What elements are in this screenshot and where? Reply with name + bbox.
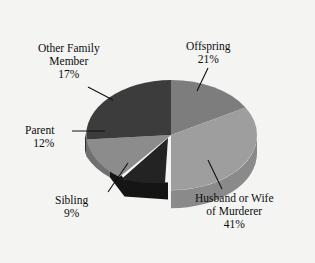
slice-label-other-family-line2: Member xyxy=(38,55,100,68)
slice-label-parent: Parent 12% xyxy=(25,124,54,150)
slice-label-sibling-percent: 9% xyxy=(55,207,88,220)
leader-line-other-family xyxy=(88,87,113,100)
slice-label-sibling-line1: Sibling xyxy=(55,194,88,207)
slice-label-sibling: Sibling 9% xyxy=(55,194,88,220)
slice-label-offspring-line1: Offspring xyxy=(186,40,231,53)
slice-label-husband-wife: Husband or Wife of Murderer 41% xyxy=(195,192,274,231)
slice-label-offspring: Offspring 21% xyxy=(186,40,231,66)
slice-label-offspring-percent: 21% xyxy=(186,53,231,66)
slice-label-husband-wife-percent: 41% xyxy=(195,218,274,231)
slice-label-parent-percent: 12% xyxy=(25,137,54,150)
slice-label-husband-wife-line1: Husband or Wife xyxy=(195,192,274,205)
slice-label-other-family: Other Family Member 17% xyxy=(38,42,100,81)
slice-label-husband-wife-line2: of Murderer xyxy=(195,205,274,218)
plot-area: Offspring 21% Husband or Wife of Murdere… xyxy=(0,0,315,263)
slice-label-other-family-percent: 17% xyxy=(38,68,100,81)
slice-label-parent-line1: Parent xyxy=(25,124,54,137)
slice-label-other-family-line1: Other Family xyxy=(38,42,100,55)
pie-chart-figure: Offspring 21% Husband or Wife of Murdere… xyxy=(0,0,315,263)
